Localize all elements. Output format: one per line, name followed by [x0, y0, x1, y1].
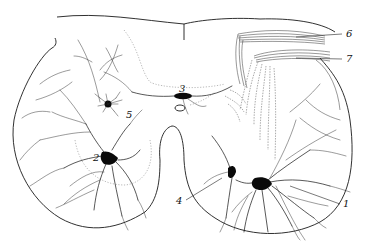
label-4: 4 [175, 195, 182, 206]
dorsal-root-fibers [225, 31, 340, 161]
spinal-cord-diagram: 1 2 3 4 5 6 7 [0, 0, 368, 248]
label-1: 1 [343, 198, 349, 209]
neuron-5 [95, 92, 122, 116]
label-2: 2 [92, 152, 99, 163]
diagram-canvas: 1 2 3 4 5 6 7 [0, 0, 368, 248]
label-6: 6 [346, 28, 353, 39]
label-3: 3 [179, 83, 185, 94]
cord-outline [13, 15, 352, 233]
label-7: 7 [346, 53, 353, 64]
label-5: 5 [126, 109, 132, 120]
neuron-4 [204, 136, 236, 232]
neuron-1 [232, 84, 350, 240]
